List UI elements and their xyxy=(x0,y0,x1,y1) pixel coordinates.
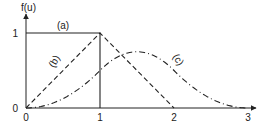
x-tick-label: 3 xyxy=(245,112,251,123)
series-group xyxy=(26,33,248,108)
series-a-label: (a) xyxy=(57,20,69,31)
y-tick-label: 1 xyxy=(12,28,18,39)
series-c-label: (c) xyxy=(170,52,186,68)
y-axis-label: f(u) xyxy=(21,2,36,13)
x-tick-label: 0 xyxy=(23,112,29,123)
series-b-label: (b) xyxy=(46,53,62,69)
chart: f(u)012301(a)(b)(c) xyxy=(0,0,260,129)
y-tick-label: 0 xyxy=(12,103,18,114)
x-tick-label: 2 xyxy=(171,112,177,123)
x-tick-label: 1 xyxy=(97,112,103,123)
